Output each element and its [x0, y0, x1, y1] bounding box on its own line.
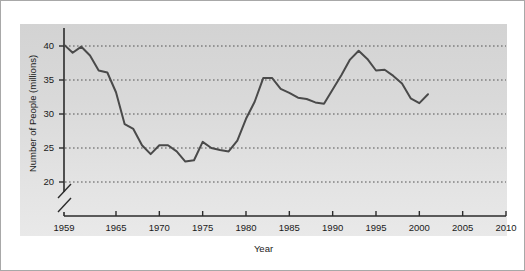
y-tick-label: 35 — [32, 74, 54, 85]
x-tick-label: 2005 — [443, 222, 483, 233]
x-tick-label: 1959 — [44, 222, 84, 233]
x-tick-label: 1995 — [356, 222, 396, 233]
data-line-number-of-people — [64, 45, 428, 162]
chart-svg — [20, 24, 507, 236]
x-tick-label: 1980 — [226, 222, 266, 233]
figure-inner: Number of People (millions) Year 2025303… — [13, 12, 514, 261]
y-tick-label: 25 — [32, 142, 54, 153]
x-tick-label: 1985 — [269, 222, 309, 233]
x-tick-label: 1970 — [139, 222, 179, 233]
x-tick-label: 2000 — [399, 222, 439, 233]
y-tick-label: 30 — [32, 108, 54, 119]
x-tick-label: 1965 — [96, 222, 136, 233]
y-tick-label: 40 — [32, 40, 54, 51]
x-tick-label: 1990 — [313, 222, 353, 233]
x-tick-label: 2010 — [486, 222, 525, 233]
y-tick-label: 20 — [32, 176, 54, 187]
x-axis-title: Year — [13, 243, 514, 254]
x-tick-label: 1975 — [183, 222, 223, 233]
axis-break-slash-2 — [58, 198, 71, 212]
chart-plot-panel — [20, 24, 507, 236]
figure-frame: Number of People (millions) Year 2025303… — [0, 0, 525, 271]
